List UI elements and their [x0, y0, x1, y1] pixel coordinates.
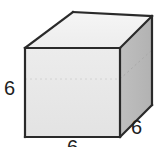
edge-label-left: 6: [4, 78, 15, 98]
edge-label-bottom: 6: [67, 137, 78, 147]
front-face: [25, 48, 120, 137]
cube-figure: 6 6 6: [0, 0, 158, 147]
edge-label-right: 6: [131, 117, 142, 137]
